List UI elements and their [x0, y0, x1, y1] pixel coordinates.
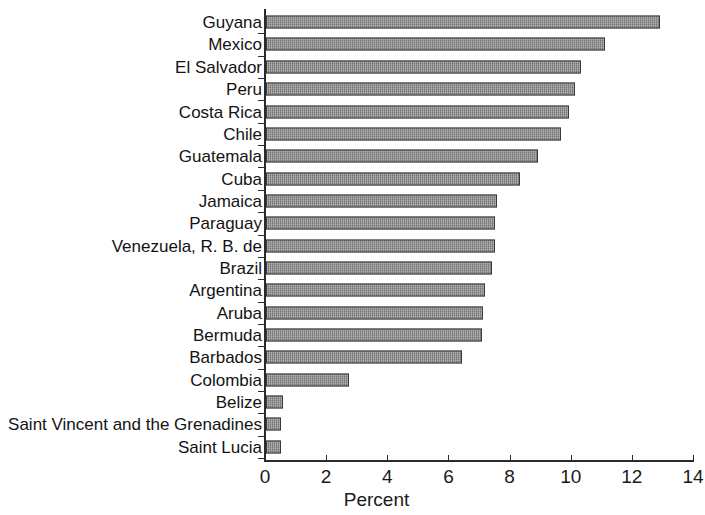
bar-row: Guatemala — [0, 145, 705, 167]
category-label: Guyana — [202, 13, 262, 32]
bar-row: Costa Rica — [0, 100, 705, 122]
category-axis-tick — [258, 324, 265, 325]
category-label: Argentina — [189, 281, 262, 300]
value-axis-tick — [387, 455, 388, 461]
bar — [266, 351, 462, 364]
category-axis-tick — [258, 33, 265, 34]
value-axis-tick-label: 8 — [504, 466, 515, 488]
bar-row: Colombia — [0, 369, 705, 391]
category-axis-tick — [258, 413, 265, 414]
bar-chart: GuyanaMexicoEl SalvadorPeruCosta RicaChi… — [0, 0, 705, 515]
category-axis-tick — [258, 56, 265, 57]
bar-row: Saint Vincent and the Grenadines — [0, 413, 705, 435]
value-axis-tick — [693, 455, 694, 461]
bar-row: Venezuela, R. B. de — [0, 235, 705, 257]
bar — [266, 261, 492, 274]
bar — [266, 284, 485, 297]
bar — [266, 418, 281, 431]
category-axis-tick — [258, 167, 265, 168]
bar-row: Chile — [0, 123, 705, 145]
bar-row: Cuba — [0, 167, 705, 189]
value-axis-tick-label: 6 — [443, 466, 454, 488]
bar — [266, 217, 495, 230]
value-axis-tick-label: 2 — [321, 466, 332, 488]
category-label: Venezuela, R. B. de — [112, 236, 262, 255]
value-axis-tick — [448, 455, 449, 461]
category-label: Brazil — [219, 258, 262, 277]
bar — [266, 329, 482, 342]
bar-row: Guyana — [0, 11, 705, 33]
category-axis-tick — [258, 257, 265, 258]
value-axis-tick — [632, 455, 633, 461]
category-axis-tick — [258, 145, 265, 146]
bar-row: Paraguay — [0, 212, 705, 234]
category-axis-tick — [258, 235, 265, 236]
bar-row: Belize — [0, 391, 705, 413]
category-axis-tick — [258, 78, 265, 79]
category-label: Bermuda — [193, 326, 262, 345]
bar-row: El Salvador — [0, 56, 705, 78]
value-axis-tick-label: 10 — [560, 466, 581, 488]
bar-row: Jamaica — [0, 190, 705, 212]
category-axis-tick — [258, 458, 265, 459]
bar-row: Aruba — [0, 302, 705, 324]
bar — [266, 38, 605, 51]
category-label: Barbados — [189, 348, 262, 367]
bar-row: Peru — [0, 78, 705, 100]
bar — [266, 127, 561, 140]
x-axis-title: Percent — [0, 489, 705, 511]
category-label: Costa Rica — [179, 102, 262, 121]
category-axis-tick — [258, 100, 265, 101]
category-axis-tick — [258, 436, 265, 437]
bar — [266, 150, 538, 163]
bar-row: Barbados — [0, 346, 705, 368]
category-label: Saint Vincent and the Grenadines — [8, 415, 262, 434]
category-axis-tick — [258, 279, 265, 280]
category-label: Colombia — [190, 370, 262, 389]
category-label: Peru — [226, 80, 262, 99]
value-axis-tick — [510, 455, 511, 461]
bar — [266, 60, 581, 73]
bar — [266, 440, 281, 453]
bar — [266, 373, 349, 386]
bar — [266, 105, 569, 118]
category-axis-tick — [258, 212, 265, 213]
category-label: Mexico — [208, 35, 262, 54]
category-label: Aruba — [217, 303, 262, 322]
value-axis-tick-label: 12 — [621, 466, 642, 488]
bar-row: Saint Lucia — [0, 436, 705, 458]
category-axis-tick — [258, 391, 265, 392]
category-axis-tick — [258, 302, 265, 303]
category-label: El Salvador — [175, 57, 262, 76]
value-axis-tick — [265, 455, 266, 461]
category-axis-tick — [258, 123, 265, 124]
value-axis-tick-label: 14 — [682, 466, 703, 488]
bar-row: Brazil — [0, 257, 705, 279]
bar — [266, 194, 497, 207]
bar — [266, 172, 520, 185]
bar — [266, 16, 660, 29]
value-axis-tick — [571, 455, 572, 461]
category-label: Guatemala — [179, 147, 262, 166]
value-axis-tick-label: 4 — [382, 466, 393, 488]
bar — [266, 239, 495, 252]
category-axis-tick — [258, 190, 265, 191]
bar — [266, 306, 483, 319]
category-label: Belize — [216, 393, 262, 412]
category-label: Paraguay — [189, 214, 262, 233]
category-label: Cuba — [221, 169, 262, 188]
value-axis-tick — [326, 455, 327, 461]
bar-row: Argentina — [0, 279, 705, 301]
value-axis-tick-label: 0 — [260, 466, 271, 488]
category-axis-tick — [258, 346, 265, 347]
category-label: Saint Lucia — [178, 437, 262, 456]
value-axis-line — [264, 460, 694, 462]
category-label: Chile — [223, 124, 262, 143]
category-label: Jamaica — [199, 191, 262, 210]
bar — [266, 83, 575, 96]
bar-row: Bermuda — [0, 324, 705, 346]
bar-row: Mexico — [0, 33, 705, 55]
category-axis-tick — [258, 369, 265, 370]
bar — [266, 396, 283, 409]
x-axis-title-text: Percent — [344, 489, 409, 510]
